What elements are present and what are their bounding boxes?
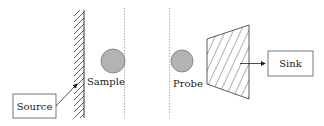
source-node: Source <box>13 94 56 118</box>
source-label: Source <box>17 101 53 112</box>
sink-node: Sink <box>268 51 313 76</box>
sink-label: Sink <box>279 58 302 69</box>
wall-hatching <box>74 10 84 118</box>
probe-label: Probe <box>173 78 203 89</box>
source-arrow <box>56 84 77 106</box>
diagram-canvas: Source Sample Probe Sink <box>0 0 324 126</box>
hatched-trapezoid <box>207 25 249 99</box>
probe-circle <box>171 50 193 72</box>
hatched-wall <box>74 10 84 118</box>
sample-label: Sample <box>87 76 125 87</box>
sample-circle <box>101 49 125 73</box>
